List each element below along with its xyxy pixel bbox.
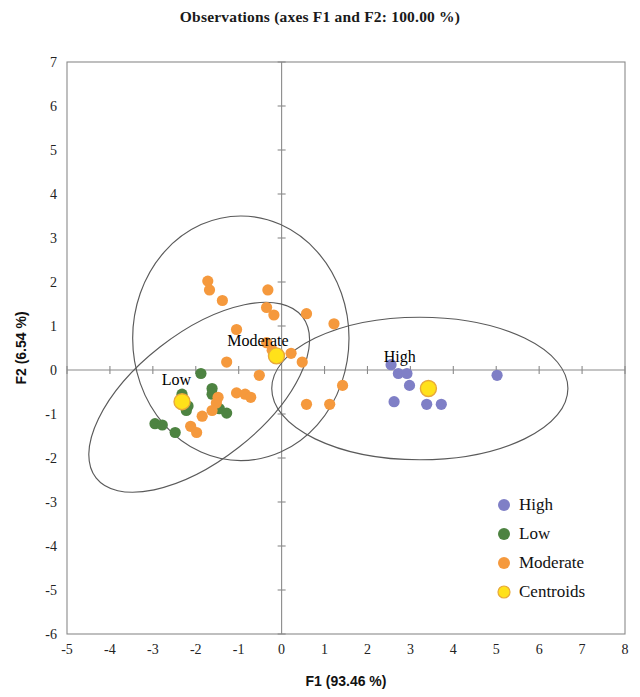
cluster-labels: ModerateLowHigh <box>162 332 416 389</box>
x-tick-label: 8 <box>622 642 629 657</box>
y-tick-label: -1 <box>45 407 57 422</box>
x-tick-label: -3 <box>147 642 159 657</box>
data-point-moderate <box>262 284 273 295</box>
data-point-moderate <box>297 356 308 367</box>
data-point-moderate <box>254 370 265 381</box>
data-point-high <box>401 368 412 379</box>
confidence-ellipse-low <box>57 266 342 528</box>
data-point-moderate <box>285 348 296 359</box>
data-point-high <box>491 370 502 381</box>
data-point-moderate <box>221 356 232 367</box>
legend-label-low: Low <box>519 524 551 543</box>
data-point-moderate <box>268 309 279 320</box>
x-tick-label: 6 <box>536 642 543 657</box>
data-point-moderate <box>301 308 312 319</box>
data-point-high <box>421 399 432 410</box>
x-tick-label: 2 <box>364 642 371 657</box>
cluster-label-high: High <box>384 348 416 366</box>
data-point-low <box>157 419 168 430</box>
y-tick-label: 4 <box>50 187 57 202</box>
legend: HighLowModerateCentroids <box>498 495 585 601</box>
data-point-high <box>388 396 399 407</box>
centroid-marker <box>268 348 284 364</box>
y-tick-label: 6 <box>50 99 57 114</box>
data-point-moderate <box>191 427 202 438</box>
data-point-low <box>221 408 232 419</box>
legend-label-moderate: Moderate <box>519 553 584 572</box>
data-point-moderate <box>217 295 228 306</box>
x-tick-label: 4 <box>450 642 457 657</box>
y-tick-label: -5 <box>45 583 57 598</box>
legend-swatch-high <box>498 499 510 511</box>
x-tick-label: 7 <box>579 642 586 657</box>
y-tick-label: 7 <box>50 55 57 70</box>
y-tick-label: -6 <box>45 627 57 642</box>
legend-label-centroids: Centroids <box>519 582 585 601</box>
data-point-moderate <box>337 380 348 391</box>
y-tick-label: 5 <box>50 143 57 158</box>
data-point-moderate <box>245 392 256 403</box>
centroid-marker <box>420 380 436 396</box>
legend-swatch-low <box>498 528 510 540</box>
y-tick-label: 0 <box>50 363 57 378</box>
y-tick-label: -3 <box>45 495 57 510</box>
y-tick-label: 3 <box>50 231 57 246</box>
legend-swatch-moderate <box>498 557 510 569</box>
x-tick-label: -2 <box>190 642 202 657</box>
confidence-ellipses <box>57 216 568 528</box>
x-tick-label: 3 <box>407 642 414 657</box>
data-point-low <box>195 368 206 379</box>
data-point-high <box>404 380 415 391</box>
data-point-high <box>436 399 447 410</box>
x-tick-label: 5 <box>493 642 500 657</box>
x-tick-label: 0 <box>278 642 285 657</box>
y-tick-label: 1 <box>50 319 57 334</box>
data-point-moderate <box>324 399 335 410</box>
x-axis-title: F1 (93.46 %) <box>306 673 387 689</box>
data-point-moderate <box>204 284 215 295</box>
y-tick-label: -4 <box>45 539 57 554</box>
cluster-label-moderate: Moderate <box>227 332 288 349</box>
chart-page: Observations (axes F1 and F2: 100.00 %) … <box>0 0 640 697</box>
y-tick-label: -2 <box>45 451 57 466</box>
y-tick-label: 2 <box>50 275 57 290</box>
data-point-moderate <box>328 318 339 329</box>
x-tick-label: -4 <box>104 642 116 657</box>
centroid-marker <box>174 394 190 410</box>
x-tick-label: -1 <box>233 642 245 657</box>
y-axis-title: F2 (6.54 %) <box>13 311 29 384</box>
data-point-moderate <box>197 411 208 422</box>
data-point-moderate <box>206 405 217 416</box>
data-point-low <box>170 427 181 438</box>
legend-label-high: High <box>519 495 554 514</box>
data-point-moderate <box>301 399 312 410</box>
scatter-plot: -5-4-3-2-101234567876543210-1-2-3-4-5-6 … <box>0 0 640 697</box>
x-tick-label: 1 <box>321 642 328 657</box>
legend-swatch-centroids <box>498 586 510 598</box>
x-tick-label: -5 <box>61 642 73 657</box>
cluster-label-low: Low <box>162 371 192 388</box>
